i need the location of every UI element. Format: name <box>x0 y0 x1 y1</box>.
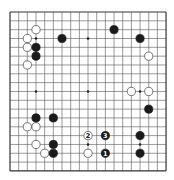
white-stone <box>23 123 31 131</box>
white-stone <box>127 87 135 95</box>
white-stone <box>32 140 40 148</box>
black-stone <box>58 34 66 42</box>
move-number: 2 <box>86 132 91 140</box>
black-stone <box>110 26 118 34</box>
star-point <box>139 90 142 93</box>
black-stone <box>136 34 144 42</box>
move-number: 3 <box>103 132 108 140</box>
black-stone <box>145 105 153 113</box>
white-stone <box>84 149 92 157</box>
white-stone <box>145 87 153 95</box>
white-stone <box>145 52 153 60</box>
star-point <box>87 37 90 40</box>
star-point <box>139 143 142 146</box>
black-stone <box>49 149 57 157</box>
black-stone <box>136 132 144 140</box>
white-stone <box>32 26 40 34</box>
black-stone <box>49 114 57 122</box>
white-stone <box>23 43 31 51</box>
star-point <box>87 143 90 146</box>
go-board: 231 <box>0 0 174 180</box>
black-stone: 3 <box>101 132 109 140</box>
black-stone <box>32 114 40 122</box>
white-stone <box>23 61 31 69</box>
black-stone <box>32 52 40 60</box>
white-stone <box>32 123 40 131</box>
black-stone: 1 <box>101 149 109 157</box>
star-point <box>35 37 38 40</box>
star-point <box>35 90 38 93</box>
white-stone: 2 <box>84 132 92 140</box>
black-stone <box>32 43 40 51</box>
white-stone <box>23 34 31 42</box>
black-stone <box>49 140 57 148</box>
move-number: 1 <box>103 150 108 158</box>
star-point <box>87 90 90 93</box>
black-stone <box>136 149 144 157</box>
white-stone <box>41 149 49 157</box>
